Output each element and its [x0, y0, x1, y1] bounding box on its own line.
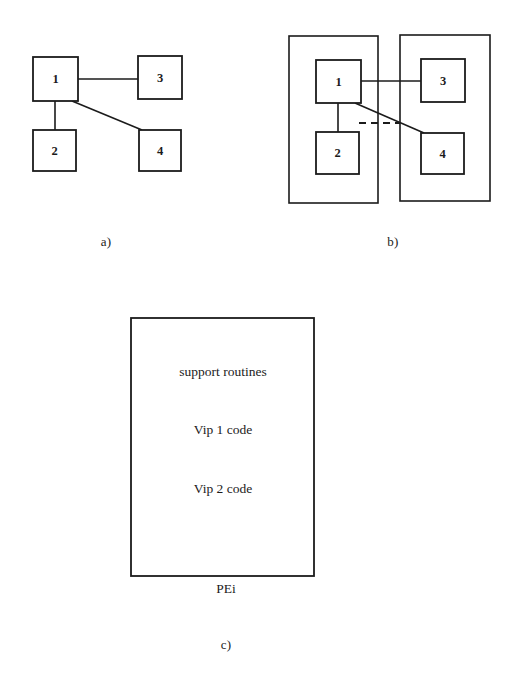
edge-b-1-4	[355, 103, 424, 133]
panel-b-graph	[289, 35, 490, 203]
panel-c-memory-map	[131, 318, 314, 576]
node-b-1-label: 1	[335, 74, 341, 89]
panel-a-caption: a)	[101, 234, 112, 250]
memory-block-vip-2-code: Vip 2 code	[194, 481, 252, 497]
memory-block-vip-1-code: Vip 1 code	[194, 422, 252, 438]
node-a-4-label: 4	[157, 143, 163, 158]
node-b-4-label: 4	[439, 146, 445, 161]
memory-block-support-routines: support routines	[179, 364, 266, 380]
node-a-3-label: 3	[157, 70, 163, 85]
edge-a-1-4	[72, 101, 142, 130]
panel-b-caption: b)	[387, 234, 398, 250]
node-b-3-label: 3	[440, 73, 446, 88]
panel-c-caption: c)	[221, 637, 232, 653]
figure-root: 1 3 2 4 a) 1 3 2 4 b) support routines V…	[0, 0, 515, 674]
node-b-2-label: 2	[334, 146, 340, 161]
memory-box	[131, 318, 314, 576]
figure-vector-layer	[0, 0, 515, 674]
node-a-2-label: 2	[51, 143, 57, 158]
node-a-1-label: 1	[52, 72, 58, 87]
memory-box-caption: PEi	[216, 581, 236, 597]
